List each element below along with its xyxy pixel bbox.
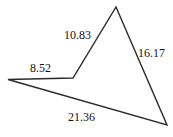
geometry-figure: 8.52 10.83 16.17 21.36 — [0, 0, 173, 137]
edge-label-10-83: 10.83 — [64, 29, 91, 42]
edge-label-8-52: 8.52 — [30, 62, 51, 75]
edge-label-16-17: 16.17 — [138, 47, 165, 60]
edge-label-21-36: 21.36 — [68, 111, 95, 124]
